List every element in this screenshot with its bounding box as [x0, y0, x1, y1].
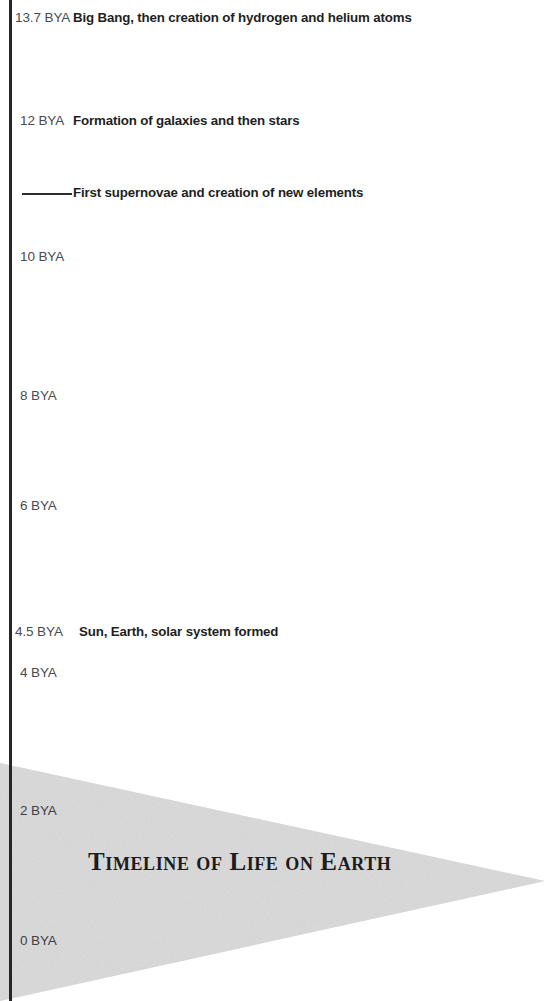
tick-label: 2 BYA: [20, 803, 57, 818]
tick-label: 8 BYA: [20, 388, 57, 403]
tick-label: 4 BYA: [20, 665, 57, 680]
tick-event-text: Formation of galaxies and then stars: [73, 113, 300, 128]
timeline-wedge: [0, 755, 560, 1001]
timeline-figure: 13.7 BYA Big Bang, then creation of hydr…: [0, 0, 560, 1001]
wedge-shape: [0, 755, 560, 1001]
timeline-axis-line: [9, 0, 12, 1001]
tick-event-text: First supernovae and creation of new ele…: [73, 185, 363, 200]
tick-event-text: Sun, Earth, solar system formed: [79, 624, 278, 639]
tick-label: 4.5 BYA: [15, 624, 63, 639]
tick-label: 6 BYA: [20, 498, 57, 513]
tick-label: 0 BYA: [20, 933, 57, 948]
tick-label: 12 BYA: [20, 113, 64, 128]
tick-label: 10 BYA: [20, 249, 64, 264]
figure-title: Timeline of Life on Earth: [88, 848, 391, 876]
tick-event-text: Big Bang, then creation of hydrogen and …: [73, 10, 412, 25]
tick-dash-marker: [22, 193, 72, 195]
tick-label: 13.7 BYA: [15, 10, 70, 25]
